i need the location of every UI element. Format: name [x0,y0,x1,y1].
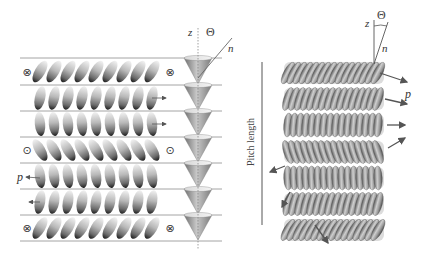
precession-cone [184,160,212,188]
p-arrow [380,73,407,82]
molecule-row [26,163,159,188]
molecule [47,189,61,214]
molecule-row [32,85,166,111]
molecule [103,189,117,214]
molecule [33,163,47,188]
left-panel-layered-view: ⊗⊗⊙⊙⊗⊗ z Θ n p [16,25,234,250]
molecule [131,189,145,214]
theta-label: Θ [377,8,386,22]
out-of-page-symbol: ⊙ [165,144,174,157]
molecule [103,163,117,188]
molecule [34,112,46,137]
into-page-symbol: ⊗ [165,222,174,235]
molecule [117,163,131,188]
p-arrow [388,138,405,148]
molecule [132,112,144,137]
right-axes: z Θ n p [364,8,411,101]
helix-layers [278,60,387,242]
molecule [61,189,75,214]
p-label: p [16,170,23,184]
p-arrow [385,99,407,104]
molecule [118,112,130,137]
into-page-symbol: ⊗ [22,66,31,79]
helix-layer [283,166,384,190]
molecule-row [29,189,159,214]
helix-layer [281,191,386,216]
molecule [102,85,117,111]
molecule [47,163,61,188]
molecule [145,163,159,188]
theta-label: Θ [206,25,215,39]
molecule [104,112,116,137]
n-label: n [382,42,388,54]
cholesteric-liquid-crystal-diagram: ⊗⊗⊙⊙⊗⊗ z Θ n p Pitch length z Θ n p [0,0,425,257]
molecule-rows: ⊗⊗⊙⊙⊗⊗ [22,59,174,241]
precession-cone [184,82,212,110]
molecule [88,85,103,111]
molecule [48,112,60,137]
molecule [89,189,103,214]
molecule [116,85,131,111]
into-page-symbol: ⊗ [22,222,31,235]
helix-layer [280,86,386,111]
molecule [75,163,89,188]
helix-layer [283,113,384,138]
molecule-row: ⊗⊗ [22,59,174,85]
molecule [60,85,75,111]
molecule [131,163,145,188]
pitch-length-label: Pitch length [245,118,256,166]
helix-layer [280,139,386,164]
out-of-page-symbol: ⊙ [22,144,31,157]
helix-layer [279,60,388,85]
molecule-row: ⊙⊙ [22,137,174,163]
molecule [76,112,88,137]
n-label: n [228,42,234,54]
helix-layer [278,217,387,242]
molecule [32,85,47,111]
molecule [89,163,103,188]
molecule [145,189,159,214]
molecule [130,85,145,111]
molecule [117,189,131,214]
molecule-row: ⊗⊗ [22,215,174,241]
molecule [90,112,102,137]
p-arrow [270,166,285,172]
z-label: z [364,17,370,29]
z-label: z [187,26,193,38]
molecule-row [34,112,166,137]
molecule [74,85,89,111]
molecule [46,85,61,111]
molecule [61,163,75,188]
p-label: p [404,87,411,101]
molecule [75,189,89,214]
theta-arc [374,25,387,26]
right-panel-helix-view: Pitch length z Θ n p [245,8,411,243]
into-page-symbol: ⊗ [165,66,174,79]
molecule [62,112,74,137]
